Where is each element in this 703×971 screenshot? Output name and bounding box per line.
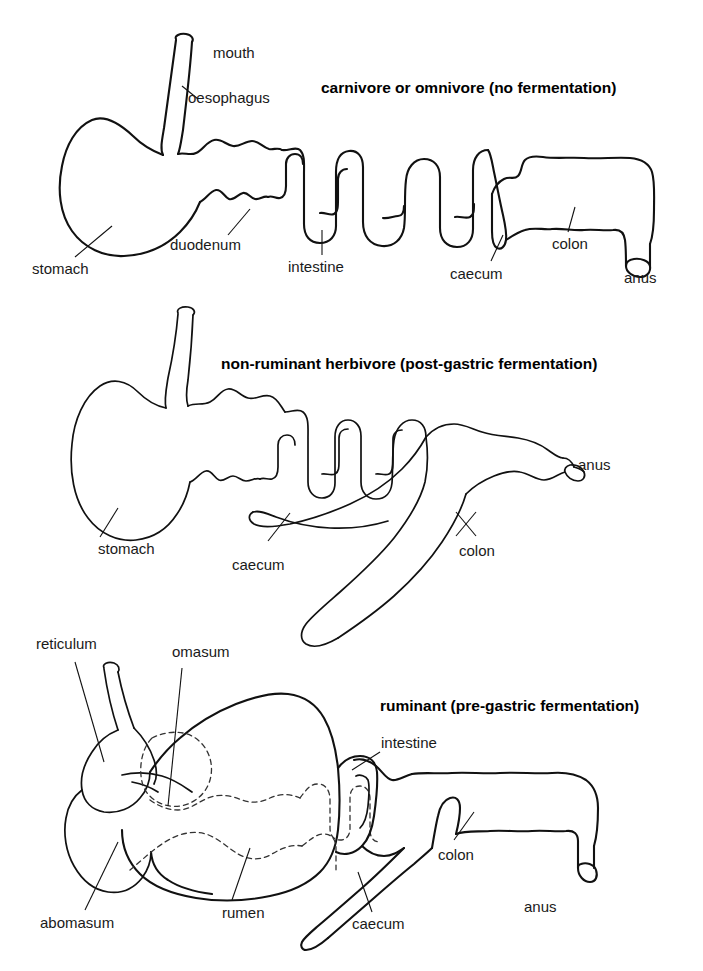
ruminant-oesophagus-shape xyxy=(104,662,134,730)
carnivore-intestine-outer-shape xyxy=(282,148,488,247)
label-ruminant-intestine: intestine xyxy=(381,734,437,751)
label-carnivore-anus: anus xyxy=(624,269,657,286)
label-ruminant-abomasum: abomasum xyxy=(40,914,114,931)
ruminant-caecum-shape xyxy=(301,848,404,950)
label-herbivore-caecum: caecum xyxy=(232,556,285,573)
herbivore-colon-rectum-shape xyxy=(466,471,565,494)
label-carnivore-mouth: mouth xyxy=(213,44,255,61)
herbivore-caecum-shape xyxy=(249,437,426,527)
label-carnivore-duodenum: duodenum xyxy=(170,236,241,253)
ruminant-reticulum-shape xyxy=(81,730,150,812)
ruminant-internal-lower-dashed-shape xyxy=(130,832,302,870)
ruminant-abomasum-shape xyxy=(65,790,151,892)
carnivore-duodenum-lower-shape xyxy=(200,190,268,202)
carnivore-intestine-loop2-shape xyxy=(320,169,347,215)
label-ruminant-caecum: caecum xyxy=(352,915,405,932)
herbivore-intestine-loop3-shape xyxy=(376,430,402,475)
herbivore-colon-lower-shape xyxy=(338,494,466,638)
ruminant-colon-bottom-shape xyxy=(456,831,578,868)
ruminant-internal-tract-dashed-shape xyxy=(150,795,300,810)
digestive-systems-figure: mouth oesophagus stomach duodenum intest… xyxy=(0,0,703,971)
panel-title-carnivore: carnivore or omnivore (no fermentation) xyxy=(321,79,616,96)
herbivore-colon-top-shape xyxy=(426,424,563,458)
leader-ruminant-abomasum xyxy=(85,842,118,910)
carnivore-caecum-shape xyxy=(488,150,506,249)
leader-herbivore-stomach xyxy=(100,508,118,537)
leader-ruminant-reticulum xyxy=(75,662,104,762)
label-herbivore-stomach: stomach xyxy=(98,540,155,557)
panel-non-ruminant-herbivore: stomach caecum colon anus non-ruminant h… xyxy=(71,307,610,646)
label-ruminant-rumen: rumen xyxy=(222,904,265,921)
label-ruminant-colon: colon xyxy=(438,846,474,863)
ruminant-colon-shape xyxy=(432,797,460,848)
ruminant-anus-shape xyxy=(578,846,597,882)
label-ruminant-omasum: omasum xyxy=(172,643,230,660)
label-carnivore-oesophagus: oesophagus xyxy=(188,89,270,106)
label-carnivore-caecum: caecum xyxy=(450,265,503,282)
herbivore-duodenum-lower-shape xyxy=(190,471,260,482)
panel-title-herbivore: non-ruminant herbivore (post-gastric fer… xyxy=(221,355,597,372)
leader-carnivore-duodenum xyxy=(228,209,250,235)
label-herbivore-colon: colon xyxy=(459,542,495,559)
herbivore-intestine-inner-shape xyxy=(260,435,295,479)
carnivore-duodenum-upper-shape xyxy=(178,140,282,155)
ruminant-reticulum-edge xyxy=(134,728,156,784)
label-herbivore-anus: anus xyxy=(578,456,611,473)
panel-ruminant: reticulum omasum abomasum rumen intestin… xyxy=(36,635,639,950)
label-ruminant-reticulum: reticulum xyxy=(36,635,97,652)
leader-carnivore-colon xyxy=(568,207,575,232)
panel-title-ruminant: ruminant (pre-gastric fermentation) xyxy=(380,697,639,714)
label-carnivore-stomach: stomach xyxy=(32,260,89,277)
ruminant-intestine-inner-shape xyxy=(356,775,369,828)
carnivore-intestine-loop3-shape xyxy=(383,206,404,218)
herbivore-oesophagus-shape xyxy=(165,307,194,408)
panel-carnivore: mouth oesophagus stomach duodenum intest… xyxy=(32,34,657,286)
carnivore-intestine-inner-shape xyxy=(268,154,303,198)
label-carnivore-colon: colon xyxy=(552,235,588,252)
label-ruminant-anus: anus xyxy=(524,898,557,915)
carnivore-intestine-loop4-shape xyxy=(455,204,474,218)
ruminant-internal-lower2-dashed-shape xyxy=(302,834,336,870)
label-carnivore-intestine: intestine xyxy=(288,258,344,275)
herbivore-colon-shape xyxy=(302,437,428,646)
herbivore-duodenum-upper-shape xyxy=(188,389,285,412)
herbivore-intestine-outer-shape xyxy=(285,410,426,499)
herbivore-stomach-shape xyxy=(71,381,190,540)
